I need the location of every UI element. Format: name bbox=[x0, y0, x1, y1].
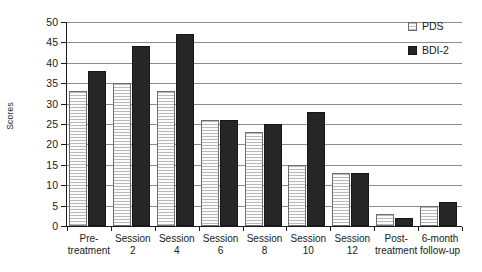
bar-group bbox=[155, 22, 199, 226]
bar-pds bbox=[420, 206, 438, 226]
x-axis-tick bbox=[330, 227, 331, 231]
bar-group bbox=[199, 22, 243, 226]
y-axis-tick bbox=[61, 124, 66, 125]
bar-group bbox=[67, 22, 111, 226]
bar-pds bbox=[288, 165, 306, 226]
bar-group bbox=[111, 22, 155, 226]
bar-pds bbox=[157, 91, 175, 226]
y-axis-tick-label: 30 bbox=[20, 99, 58, 110]
bar-pds bbox=[201, 120, 219, 226]
x-axis-tick bbox=[111, 227, 112, 231]
x-axis-tick bbox=[243, 227, 244, 231]
bar-pds bbox=[332, 173, 350, 226]
y-axis-tick-label: 45 bbox=[20, 37, 58, 48]
legend-swatch-icon bbox=[408, 22, 417, 31]
bar-pds bbox=[113, 83, 131, 226]
bar-pds bbox=[69, 91, 87, 226]
bar-bdi-2 bbox=[220, 120, 238, 226]
bar-pds bbox=[245, 132, 263, 226]
bar-bdi-2 bbox=[439, 202, 457, 226]
y-axis-tick bbox=[61, 42, 66, 43]
bar-group bbox=[330, 22, 374, 226]
y-axis-tick-label: 40 bbox=[20, 58, 58, 69]
bar-bdi-2 bbox=[307, 112, 325, 226]
x-axis-tick bbox=[374, 227, 375, 231]
y-axis-tick-label: 20 bbox=[20, 139, 58, 150]
y-axis-tick-label: 25 bbox=[20, 119, 58, 130]
bar-bdi-2 bbox=[176, 34, 194, 226]
y-axis-tick-label: 5 bbox=[20, 201, 58, 212]
y-axis-tick-label: 10 bbox=[20, 180, 58, 191]
x-axis-tick bbox=[418, 227, 419, 231]
y-axis-tick-label: 50 bbox=[20, 17, 58, 28]
y-axis-tick-labels: 50454035302520151050 bbox=[14, 0, 58, 272]
x-axis-tick bbox=[286, 227, 287, 231]
bar-bdi-2 bbox=[395, 218, 413, 226]
legend-label: PDS bbox=[422, 21, 444, 32]
chart-legend: PDSBDI-2 bbox=[408, 18, 482, 66]
legend-label: BDI-2 bbox=[422, 45, 449, 56]
bar-bdi-2 bbox=[132, 46, 150, 226]
bar-pds bbox=[376, 214, 394, 226]
x-axis-tick bbox=[155, 227, 156, 231]
x-axis-tick bbox=[199, 227, 200, 231]
y-axis-tick bbox=[61, 63, 66, 64]
x-axis-tick-labels: Pre- treatmentSession 2Session 4Session … bbox=[67, 233, 462, 272]
x-axis-tick bbox=[67, 227, 68, 231]
y-axis-tick-label: 15 bbox=[20, 160, 58, 171]
legend-item[interactable]: PDS bbox=[408, 18, 482, 35]
y-axis-tick-label: 0 bbox=[20, 221, 58, 232]
bar-chart: Scores 50454035302520151050 Pre- treatme… bbox=[0, 0, 482, 272]
y-axis-tick bbox=[61, 83, 66, 84]
bar-group bbox=[243, 22, 287, 226]
legend-swatch-icon bbox=[408, 46, 417, 55]
y-axis-tick bbox=[61, 185, 66, 186]
y-axis-tick-label: 35 bbox=[20, 78, 58, 89]
y-axis-tick bbox=[61, 104, 66, 105]
y-axis-tick bbox=[61, 206, 66, 207]
legend-item[interactable]: BDI-2 bbox=[408, 42, 482, 59]
bar-bdi-2 bbox=[88, 71, 106, 226]
y-axis-tick bbox=[61, 165, 66, 166]
bar-bdi-2 bbox=[264, 124, 282, 226]
y-axis-tick bbox=[61, 226, 66, 227]
y-axis-tick bbox=[61, 22, 66, 23]
plot-area bbox=[67, 22, 462, 226]
x-axis-tick bbox=[462, 227, 463, 231]
x-axis-line bbox=[67, 226, 462, 227]
x-axis-category-label: 6-month follow-up bbox=[412, 233, 468, 256]
bar-group bbox=[286, 22, 330, 226]
y-axis-tick bbox=[61, 144, 66, 145]
bar-bdi-2 bbox=[351, 173, 369, 226]
